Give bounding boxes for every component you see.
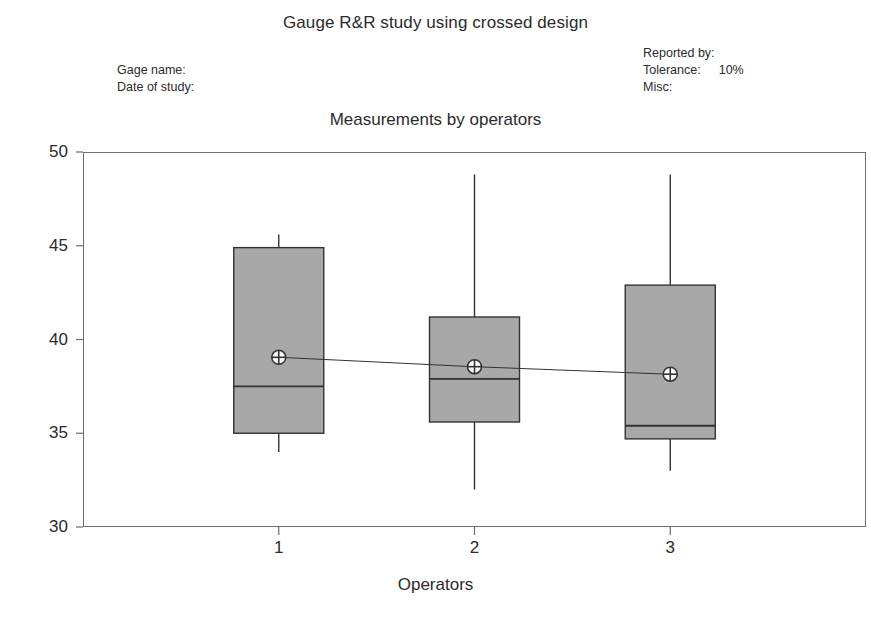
x-axis-title: Operators — [0, 575, 871, 595]
gauge-rr-report: Gauge R&R study using crossed design Gag… — [0, 0, 871, 625]
boxplot-canvas — [0, 0, 871, 625]
x-axis-tick-label: 3 — [650, 538, 690, 558]
y-axis-labels: 3035404550 — [22, 0, 68, 625]
y-axis-tick-label: 30 — [22, 517, 68, 537]
box-group — [234, 175, 716, 490]
y-axis-tick-label: 40 — [22, 330, 68, 350]
x-axis-tick-label: 1 — [259, 538, 299, 558]
x-axis-tick-marks — [279, 527, 671, 535]
y-axis-tick-marks — [76, 152, 83, 527]
x-axis-tick-label: 2 — [455, 538, 495, 558]
y-axis-tick-label: 50 — [22, 142, 68, 162]
y-axis-tick-label: 35 — [22, 423, 68, 443]
y-axis-tick-label: 45 — [22, 236, 68, 256]
